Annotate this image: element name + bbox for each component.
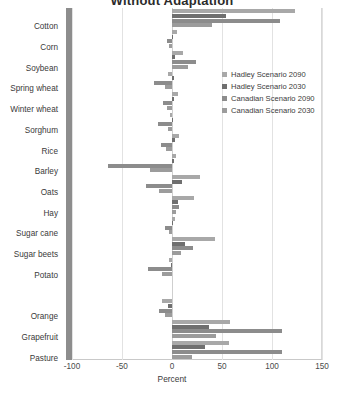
bar [165, 313, 172, 317]
bar [172, 134, 179, 138]
bar [172, 35, 173, 39]
legend-swatch-icon [222, 96, 227, 101]
legend-item[interactable]: Hadley Scenario 2090 [222, 70, 315, 79]
gridline [272, 8, 273, 360]
bar [172, 30, 177, 34]
gridline [122, 8, 123, 360]
x-tick-label: 50 [217, 362, 226, 371]
bar [159, 189, 172, 193]
gridline [222, 8, 223, 360]
bar [172, 355, 192, 359]
gridline [322, 8, 323, 360]
chart-legend: Hadley Scenario 2090Hadley Scenario 2030… [222, 70, 315, 118]
bar [172, 205, 179, 209]
legend-swatch-icon [222, 84, 227, 89]
bar [158, 122, 172, 126]
legend-label: Canadian Scenario 2090 [231, 94, 315, 103]
bar [172, 341, 229, 345]
category-label: Winter wheat [10, 105, 58, 114]
bar [172, 19, 280, 23]
category-label: Hay [43, 208, 58, 217]
x-tick-label: 150 [315, 362, 329, 371]
bar [167, 106, 172, 110]
bar [162, 272, 172, 276]
category-label: Cotton [34, 22, 58, 31]
bar [172, 221, 173, 225]
bar [167, 39, 172, 43]
legend-item[interactable]: Hadley Scenario 2030 [222, 82, 315, 91]
bar [172, 154, 176, 158]
category-label: Oats [41, 188, 58, 197]
bar [172, 345, 205, 349]
x-tick-label: -50 [116, 362, 128, 371]
legend-label: Canadian Scenario 2030 [231, 106, 315, 115]
bar [172, 65, 188, 69]
category-label: Sorghum [25, 125, 58, 134]
plot-area [72, 8, 322, 360]
bar [168, 127, 172, 131]
category-label: Corn [40, 43, 58, 52]
bar [166, 147, 172, 151]
category-label: Soybean [26, 63, 58, 72]
bar [172, 23, 212, 27]
bar [172, 334, 216, 338]
bar [172, 217, 175, 221]
bar [150, 168, 172, 172]
bar [171, 263, 172, 267]
legend-item[interactable]: Canadian Scenario 2030 [222, 106, 315, 115]
x-tick-label: -100 [64, 362, 80, 371]
chart-title: Without Adaptation [0, 0, 344, 8]
bar [161, 143, 172, 147]
legend-label: Hadley Scenario 2090 [231, 70, 306, 79]
category-label: Pasture [30, 353, 58, 362]
bar [172, 320, 230, 324]
bar [172, 76, 174, 80]
bar [172, 325, 209, 329]
category-axis-labels: CottonCornSoybeanSpring wheatWinter whea… [0, 8, 64, 360]
bar [169, 230, 172, 234]
bar [172, 159, 174, 163]
bar [172, 200, 178, 204]
bar [172, 210, 176, 214]
bar [172, 97, 174, 101]
bar [172, 60, 196, 64]
bar [172, 138, 175, 142]
legend-swatch-icon [222, 72, 227, 77]
x-tick-label: 100 [265, 362, 279, 371]
bar [172, 329, 282, 333]
category-label: Orange [31, 312, 58, 321]
bar [165, 226, 172, 230]
bar [172, 246, 193, 250]
category-label: Sugar beets [14, 250, 58, 259]
category-label: Sugar cane [16, 229, 58, 238]
bar [168, 304, 172, 308]
bar [162, 299, 172, 303]
bar [172, 350, 282, 354]
bar [172, 55, 175, 59]
category-label: Grapefruit [22, 332, 58, 341]
bar [172, 196, 194, 200]
bar [168, 72, 172, 76]
bar [172, 92, 178, 96]
bar [165, 85, 172, 89]
bar [169, 258, 172, 262]
legend-item[interactable]: Canadian Scenario 2090 [222, 94, 315, 103]
bar [169, 44, 172, 48]
bar [172, 9, 295, 13]
bar [146, 184, 172, 188]
bar [172, 180, 182, 184]
bar [172, 175, 200, 179]
bar [172, 242, 185, 246]
chart-root: Without Adaptation CottonCornSoybeanSpri… [0, 0, 344, 406]
bar [108, 164, 172, 168]
bar [172, 51, 183, 55]
category-label: Potato [34, 270, 58, 279]
plot-frame [72, 8, 322, 360]
bar [163, 101, 172, 105]
category-label: Spring wheat [10, 84, 58, 93]
bar [172, 118, 173, 122]
category-label: Rice [42, 146, 58, 155]
legend-swatch-icon [222, 108, 227, 113]
x-tick-label: 0 [170, 362, 175, 371]
bar [172, 237, 215, 241]
